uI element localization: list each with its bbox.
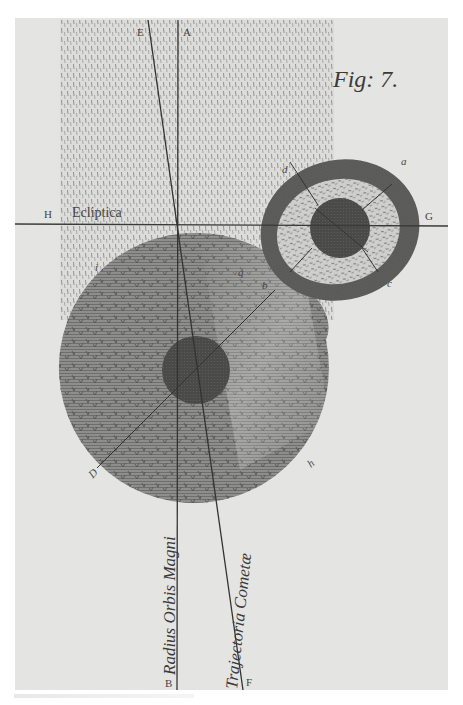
label-A: A — [183, 27, 191, 38]
label-c: c — [387, 278, 392, 289]
label-a: a — [401, 156, 407, 167]
label-G: G — [425, 211, 433, 222]
ring-core — [310, 198, 370, 258]
label-b: b — [262, 280, 268, 291]
label-B: B — [165, 678, 172, 689]
label-q: q — [238, 267, 244, 278]
label-radius-orbis-magni: Radius Orbis Magni — [160, 536, 180, 675]
footer-smudge — [14, 694, 194, 698]
label-i: i — [95, 262, 98, 273]
comet-nucleus — [162, 336, 230, 404]
label-ecliptica: Ecliptica — [72, 206, 122, 220]
label-H: H — [44, 209, 52, 220]
label-d: d — [282, 164, 288, 175]
figure-caption: Fig: 7. — [333, 66, 398, 93]
label-E: E — [137, 27, 144, 38]
label-F: F — [246, 677, 252, 688]
